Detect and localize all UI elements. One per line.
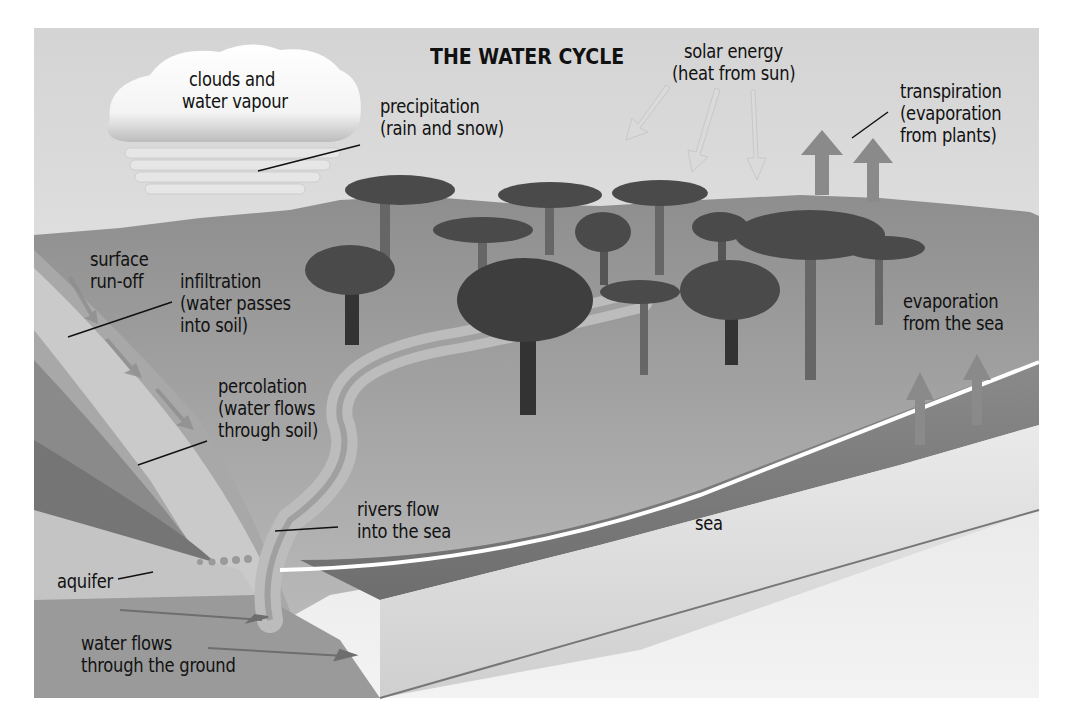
- label-line: infiltration: [180, 270, 291, 292]
- label-aquifer: aquifer: [57, 570, 113, 592]
- label-line: water vapour: [182, 90, 288, 112]
- label-rivers: rivers flow into the sea: [357, 498, 451, 542]
- label-line: evaporation: [903, 290, 1004, 312]
- label-line: into soil): [180, 314, 291, 336]
- label-line: through soil): [218, 419, 318, 441]
- label-surface-runoff: surface run-off: [90, 248, 149, 292]
- label-line: into the sea: [357, 520, 451, 542]
- label-line: solar energy: [672, 40, 795, 62]
- label-groundwater: water flows through the ground: [81, 632, 236, 676]
- label-precipitation: precipitation (rain and snow): [380, 95, 504, 139]
- label-line: through the ground: [81, 654, 236, 676]
- label-line: (rain and snow): [380, 117, 504, 139]
- label-line: (water passes: [180, 292, 291, 314]
- label-line: transpiration: [900, 80, 1002, 102]
- label-line: precipitation: [380, 95, 504, 117]
- label-line: from plants): [900, 124, 1002, 146]
- label-evaporation-sea: evaporation from the sea: [903, 290, 1004, 334]
- label-percolation: percolation (water flows through soil): [218, 375, 318, 441]
- label-line: clouds and: [182, 68, 288, 90]
- label-line: (water flows: [218, 397, 318, 419]
- label-infiltration: infiltration (water passes into soil): [180, 270, 291, 336]
- label-line: run-off: [90, 270, 149, 292]
- label-sea: sea: [695, 512, 723, 534]
- water-cycle-diagram: THE WATER CYCLE clouds and water vapour …: [0, 0, 1070, 726]
- label-solar-energy: solar energy (heat from sun): [672, 40, 795, 84]
- label-transpiration: transpiration (evaporation from plants): [900, 80, 1002, 146]
- label-line: percolation: [218, 375, 318, 397]
- label-line: (evaporation: [900, 102, 1002, 124]
- label-line: rivers flow: [357, 498, 451, 520]
- label-line: (heat from sun): [672, 62, 795, 84]
- diagram-title: THE WATER CYCLE: [430, 44, 624, 69]
- label-line: surface: [90, 248, 149, 270]
- label-line: water flows: [81, 632, 236, 654]
- label-line: from the sea: [903, 312, 1004, 334]
- label-clouds: clouds and water vapour: [182, 68, 288, 112]
